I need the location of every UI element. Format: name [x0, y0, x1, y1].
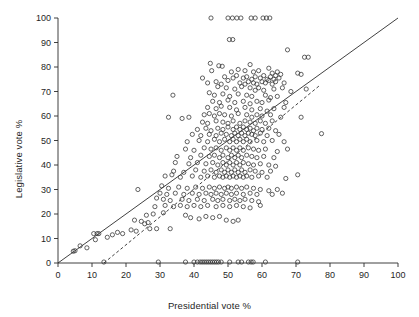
- data-point: [251, 70, 255, 74]
- data-point: [182, 192, 186, 196]
- data-point: [156, 260, 160, 264]
- data-point: [190, 132, 194, 136]
- data-point: [253, 75, 257, 79]
- data-point: [251, 147, 255, 151]
- data-point: [230, 16, 234, 20]
- data-point: [217, 111, 221, 115]
- data-point: [224, 191, 228, 195]
- data-point: [105, 235, 109, 239]
- data-point: [212, 153, 216, 157]
- data-point: [221, 120, 225, 124]
- y-tick-label: 90: [41, 38, 51, 48]
- data-point: [280, 86, 284, 90]
- data-point: [168, 227, 172, 231]
- data-point: [216, 198, 220, 202]
- data-point: [267, 189, 271, 193]
- data-point: [192, 148, 196, 152]
- data-point: [180, 116, 184, 120]
- data-point: [170, 173, 174, 177]
- data-point: [263, 147, 267, 151]
- data-point: [178, 203, 182, 207]
- data-point: [214, 191, 218, 195]
- data-point: [190, 191, 194, 195]
- data-point: [197, 192, 201, 196]
- y-tick-label: 60: [41, 111, 51, 121]
- data-point: [207, 154, 211, 158]
- data-point: [189, 216, 193, 220]
- data-point: [197, 217, 201, 221]
- data-point: [231, 219, 235, 223]
- data-point: [262, 88, 266, 92]
- data-point: [155, 196, 159, 200]
- data-point: [223, 137, 227, 141]
- x-axis-title: Presidential vote %: [0, 300, 419, 311]
- data-point: [285, 147, 289, 151]
- x-tick-label: 40: [189, 270, 199, 280]
- data-point: [166, 115, 170, 119]
- data-point: [168, 198, 172, 202]
- x-tick-label: 60: [257, 270, 267, 280]
- data-point: [216, 163, 220, 167]
- data-point: [246, 162, 250, 166]
- data-point: [200, 186, 204, 190]
- y-axis-title: Legislative vote %: [13, 89, 24, 229]
- data-point: [234, 203, 238, 207]
- data-point: [253, 16, 257, 20]
- data-point: [241, 99, 245, 103]
- data-point: [229, 114, 233, 118]
- data-point: [209, 192, 213, 196]
- data-point: [280, 191, 284, 195]
- data-point: [204, 214, 208, 218]
- data-point: [258, 187, 262, 191]
- data-point: [249, 16, 253, 20]
- data-point: [263, 260, 267, 264]
- data-point: [195, 127, 199, 131]
- data-point: [245, 113, 249, 117]
- data-point: [251, 186, 255, 190]
- data-point: [258, 119, 262, 123]
- data-point: [243, 69, 247, 73]
- data-point: [121, 232, 125, 236]
- data-point: [234, 73, 238, 77]
- data-point: [204, 162, 208, 166]
- x-tick-label: 30: [155, 270, 165, 280]
- data-point: [219, 148, 223, 152]
- data-point: [284, 176, 288, 180]
- data-point: [134, 229, 138, 233]
- x-tick-label: 70: [291, 270, 301, 280]
- data-point: [204, 126, 208, 130]
- data-point: [270, 192, 274, 196]
- data-point: [221, 197, 225, 201]
- data-point: [214, 205, 218, 209]
- data-point: [165, 192, 169, 196]
- data-points: [71, 16, 323, 264]
- data-point: [173, 191, 177, 195]
- data-point: [219, 192, 223, 196]
- data-point: [248, 168, 252, 172]
- x-axis-ticks: 0102030405060708090100: [55, 263, 405, 280]
- y-tick-label: 0: [46, 258, 51, 268]
- data-point: [199, 205, 203, 209]
- data-point: [214, 119, 218, 123]
- data-point: [282, 105, 286, 109]
- data-point: [257, 86, 261, 90]
- data-point: [153, 205, 157, 209]
- data-point: [185, 140, 189, 144]
- data-point: [285, 48, 289, 52]
- data-point: [202, 146, 206, 150]
- data-point: [268, 169, 272, 173]
- data-point: [206, 121, 210, 125]
- data-point: [255, 126, 259, 130]
- data-point: [158, 191, 162, 195]
- data-point: [246, 80, 250, 84]
- data-point: [212, 93, 216, 97]
- data-point: [235, 16, 239, 20]
- y-tick-label: 50: [41, 136, 51, 146]
- data-point: [277, 76, 281, 80]
- data-point: [202, 198, 206, 202]
- data-point: [250, 108, 254, 112]
- data-point: [132, 218, 136, 222]
- data-point: [210, 69, 214, 73]
- data-point: [267, 66, 271, 70]
- data-point: [229, 70, 233, 74]
